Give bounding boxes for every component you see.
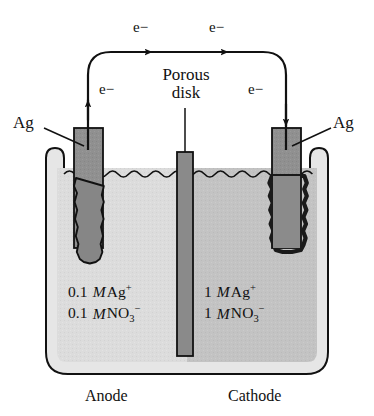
porous-disk-label-line1: Porous (146, 66, 226, 84)
cell-diagram-graphics (0, 0, 374, 416)
anode-corroded-tip (74, 178, 104, 264)
cathode-submerged (273, 176, 300, 248)
porous-disk (177, 108, 193, 356)
electron-label-top-right: e− (209, 20, 224, 36)
footer-label-anode: Anode (85, 388, 128, 405)
solution-right-labels: 1 MAg+ 1 MNO3− (204, 282, 265, 325)
footer-label-cathode: Cathode (228, 388, 281, 405)
porous-disk-body (177, 152, 193, 356)
porous-disk-label-line2: disk (146, 84, 226, 102)
solution-left-anion: 0.1 MNO3− (68, 303, 141, 324)
porous-disk-label: Porous disk (146, 66, 226, 102)
solution-right-anion: 1 MNO3− (204, 303, 265, 324)
ag-label-left: Ag (13, 114, 34, 132)
solution-right-cation: 1 MAg+ (204, 282, 265, 300)
electron-label-top-left: e− (133, 20, 148, 36)
solution-left-labels: 0.1 MAg+ 0.1 MNO3− (68, 282, 141, 325)
cell-diagram: e− e− e− e− Porous disk Ag Ag 0.1 MAg+ 0… (0, 0, 374, 416)
electron-label-anode: e− (99, 82, 114, 98)
solution-left-cation: 0.1 MAg+ (68, 282, 141, 300)
ag-label-right: Ag (333, 114, 354, 132)
electron-label-cathode: e− (248, 82, 263, 98)
